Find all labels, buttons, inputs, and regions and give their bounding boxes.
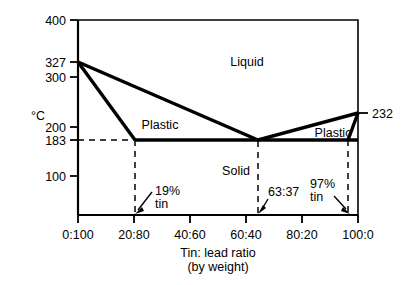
phase-diagram-figure: 400 327 300 200 183 100 °C 0:100 20:80 4… (0, 0, 404, 285)
endpoint-label-232: 232 (372, 107, 393, 121)
tin-lead-phase-diagram-svg: 400 327 300 200 183 100 °C 0:100 20:80 4… (0, 0, 404, 285)
annotation-19-percent-tin-line2: tin (155, 197, 168, 211)
annotation-63-37-line1: 63:37 (268, 185, 299, 199)
x-tick-label-60-40: 60:40 (230, 228, 261, 242)
x-axis-title-line1: Tin: lead ratio (180, 246, 255, 260)
x-tick-label-40-60: 40:60 (174, 228, 205, 242)
y-tick-label-327: 327 (45, 56, 66, 70)
x-tick-label-0-100: 0:100 (62, 228, 93, 242)
region-label-solid: Solid (222, 164, 250, 178)
annotation-97-percent-tin-leader (334, 196, 346, 209)
y-axis-title: °C (31, 109, 45, 123)
x-tick-label-80-20: 80:20 (286, 228, 317, 242)
annotation-19-percent-tin-line1: 19% (155, 184, 180, 198)
annotation-97-percent-tin-line2: tin (310, 190, 323, 204)
y-tick-label-400: 400 (45, 14, 66, 28)
y-tick-label-183: 183 (45, 134, 66, 148)
annotation-97-percent-tin-line1: 97% (310, 177, 335, 191)
annotation-19-percent-tin-leader (138, 192, 152, 210)
annotation-63-37-arrowhead (258, 205, 266, 214)
region-label-plastic-left: Plastic (142, 118, 179, 132)
region-label-plastic-right: Plastic (315, 126, 352, 140)
y-tick-label-300: 300 (45, 71, 66, 85)
y-tick-label-100: 100 (45, 170, 66, 184)
x-tick-label-20-80: 20:80 (118, 228, 149, 242)
x-tick-label-100-0: 100:0 (342, 228, 373, 242)
x-axis-title-line2: (by weight) (187, 260, 248, 274)
region-label-liquid: Liquid (230, 55, 263, 69)
y-tick-label-200: 200 (45, 121, 66, 135)
